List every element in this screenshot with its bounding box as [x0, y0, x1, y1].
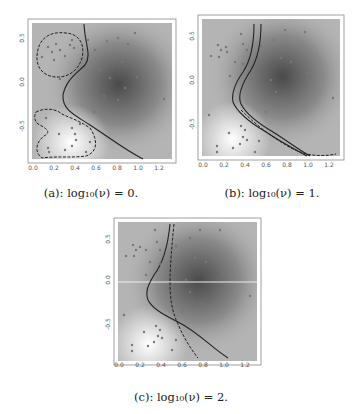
svg-text:1.2: 1.2 — [324, 161, 334, 168]
svg-text:0.0: 0.0 — [114, 361, 124, 368]
svg-text:-0.5: -0.5 — [18, 120, 25, 132]
svg-text:0.6: 0.6 — [177, 361, 187, 368]
svg-text:1.0: 1.0 — [303, 161, 313, 168]
svg-text:0.5: 0.5 — [18, 33, 25, 43]
svg-text:0.8: 0.8 — [282, 161, 292, 168]
y-axis-ticks: 0.5 0.0 -0.5 — [188, 31, 195, 130]
svg-text:0.4: 0.4 — [70, 164, 80, 171]
svg-text:1.0: 1.0 — [133, 164, 143, 171]
panel-c-plot: 0.5 0.0 -0.5 0.0 0.2 0.4 0.6 0.8 1.0 1.2 — [90, 200, 271, 390]
x-axis-ticks: 0.0 0.2 0.4 0.6 0.8 1.0 1.2 — [198, 161, 334, 168]
svg-text:0.2: 0.2 — [49, 164, 59, 171]
svg-text:0.5: 0.5 — [188, 31, 195, 41]
y-axis-ticks: 0.5 0.0 -0.5 — [104, 234, 111, 330]
svg-text:1.2: 1.2 — [154, 164, 164, 171]
svg-text:0.0: 0.0 — [188, 75, 195, 85]
svg-text:0.6: 0.6 — [261, 161, 271, 168]
panel-a-plot: 0.5 0.0 -0.5 0.0 0.2 0.4 0.6 0.8 1.0 1.2 — [0, 0, 181, 190]
svg-text:0.0: 0.0 — [28, 164, 38, 171]
caption-a: (a): log₁₀(ν) = 0. — [44, 186, 138, 200]
svg-text:0.0: 0.0 — [18, 77, 25, 87]
svg-text:0.5: 0.5 — [104, 234, 111, 244]
svg-text:1.0: 1.0 — [219, 361, 229, 368]
svg-text:-0.5: -0.5 — [104, 318, 111, 330]
caption-b: (b): log₁₀(ν) = 1. — [225, 186, 320, 200]
panel-a: 0.5 0.0 -0.5 0.0 0.2 0.4 0.6 0.8 1.0 1.2… — [0, 0, 181, 200]
svg-text:0.8: 0.8 — [198, 361, 208, 368]
x-axis-ticks: 0.0 0.2 0.4 0.6 0.8 1.0 1.2 — [28, 164, 164, 171]
panel-b-plot: 0.5 0.0 -0.5 0.0 0.2 0.4 0.6 0.8 1.0 1.2 — [181, 0, 362, 190]
svg-text:-0.5: -0.5 — [188, 118, 195, 130]
panel-c: 0.5 0.0 -0.5 0.0 0.2 0.4 0.6 0.8 1.0 1.2… — [90, 200, 271, 414]
svg-text:0.2: 0.2 — [135, 361, 145, 368]
svg-text:0.0: 0.0 — [104, 275, 111, 285]
svg-text:1.2: 1.2 — [240, 361, 250, 368]
svg-text:0.4: 0.4 — [240, 161, 250, 168]
caption-c: (c): log₁₀(ν) = 2. — [134, 390, 228, 404]
panel-b: 0.5 0.0 -0.5 0.0 0.2 0.4 0.6 0.8 1.0 1.2… — [181, 0, 362, 200]
svg-text:0.2: 0.2 — [219, 161, 229, 168]
svg-text:0.4: 0.4 — [156, 361, 166, 368]
y-axis-ticks: 0.5 0.0 -0.5 — [18, 33, 25, 132]
svg-text:0.6: 0.6 — [91, 164, 101, 171]
svg-text:0.8: 0.8 — [112, 164, 122, 171]
svg-text:0.0: 0.0 — [198, 161, 208, 168]
